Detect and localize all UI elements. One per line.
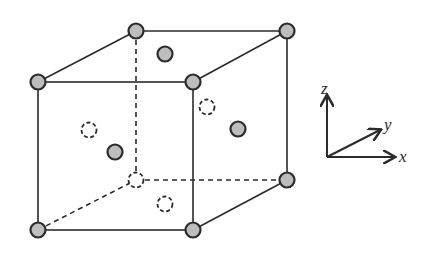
unit-cell-diagram: z y x <box>0 0 430 254</box>
hidden-edge-depth <box>38 180 136 230</box>
atom-back-bottom-left-hidden <box>129 173 144 188</box>
atom-back-top-right <box>280 24 295 39</box>
x-axis-label: x <box>398 147 407 166</box>
atom-front-top-right <box>186 75 201 90</box>
atom-back-top-left <box>129 24 144 39</box>
atom-back-bottom-right <box>280 173 295 188</box>
atoms <box>31 24 295 238</box>
atom-back-face-hidden <box>200 100 215 115</box>
y-axis-label: y <box>382 115 392 134</box>
top-right-depth-edge <box>193 31 287 82</box>
atom-front-top-left <box>31 75 46 90</box>
y-axis-arrow <box>327 130 380 157</box>
atom-front-bottom-right <box>186 223 201 238</box>
top-left-depth-edge <box>38 31 136 82</box>
atom-right-face <box>231 122 246 137</box>
atom-top-face <box>158 47 173 62</box>
diagram-canvas: z y x <box>0 0 430 254</box>
atom-bottom-face-hidden <box>158 197 173 212</box>
atom-left-face-hidden <box>82 123 97 138</box>
atom-front-face <box>108 145 123 160</box>
z-axis-label: z <box>320 79 328 98</box>
bottom-right-depth-edge <box>193 180 287 230</box>
atom-front-bottom-left <box>31 223 46 238</box>
